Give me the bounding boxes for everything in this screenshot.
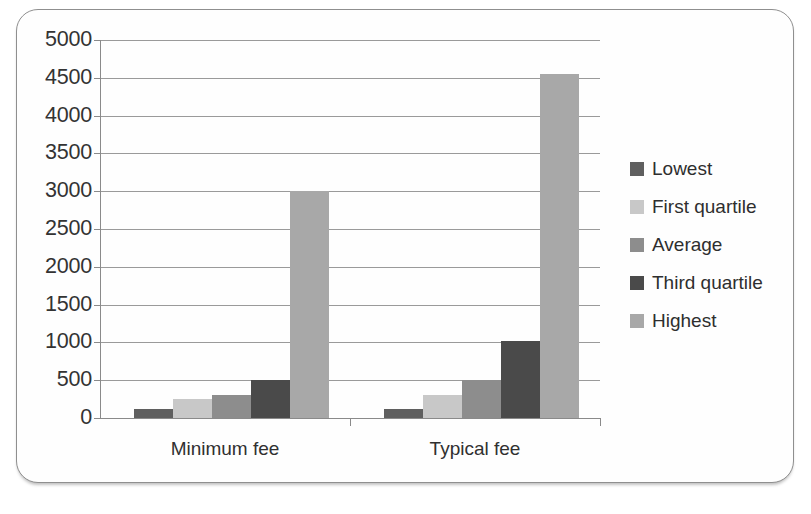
y-axis-tick-label: 2500: [45, 218, 92, 240]
legend-item-label: Lowest: [652, 158, 712, 180]
legend-swatch-icon: [630, 200, 644, 214]
legend-item[interactable]: Highest: [630, 302, 800, 340]
y-axis-tick-label: 4500: [45, 67, 92, 89]
chart-figure: 0500100015002000250030003500400045005000…: [0, 0, 811, 514]
y-axis-tick-labels: 0500100015002000250030003500400045005000: [14, 40, 92, 418]
y-axis-tick-label: 500: [57, 369, 92, 391]
legend-item[interactable]: Average: [630, 226, 800, 264]
bar: [173, 399, 212, 418]
gridline: [100, 153, 600, 154]
gridline: [100, 229, 600, 230]
y-axis-tick-label: 4000: [45, 105, 92, 127]
bar: [501, 341, 540, 418]
legend-swatch-icon: [630, 314, 644, 328]
legend-swatch-icon: [630, 162, 644, 176]
x-axis-category-label: Typical fee: [350, 438, 600, 460]
legend-item[interactable]: Lowest: [630, 150, 800, 188]
plot-area: [100, 40, 600, 418]
y-axis-tick-label: 1000: [45, 331, 92, 353]
y-axis-tick-mark: [94, 418, 101, 419]
y-axis-tick-label: 1500: [45, 294, 92, 316]
legend-item-label: First quartile: [652, 196, 757, 218]
y-axis-tick-label: 3000: [45, 180, 92, 202]
y-axis-tick-label: 5000: [45, 29, 92, 51]
bar: [540, 74, 579, 418]
y-axis-tick-label: 3500: [45, 142, 92, 164]
gridline: [100, 40, 600, 41]
legend-item-label: Third quartile: [652, 272, 763, 294]
y-axis-line: [100, 40, 101, 418]
x-axis-tick-mark: [600, 418, 601, 426]
gridline: [100, 191, 600, 192]
bar: [212, 395, 251, 418]
bar: [423, 395, 462, 418]
legend-item[interactable]: First quartile: [630, 188, 800, 226]
bar: [134, 409, 173, 418]
bar: [384, 409, 423, 418]
x-axis-tick-mark: [350, 418, 351, 426]
legend-item[interactable]: Third quartile: [630, 264, 800, 302]
bar: [462, 380, 501, 418]
y-axis-tick-label: 0: [80, 407, 92, 429]
gridline: [100, 305, 600, 306]
legend-item-label: Highest: [652, 310, 716, 332]
legend-item-label: Average: [652, 234, 722, 256]
chart-legend: LowestFirst quartileAverageThird quartil…: [630, 150, 800, 340]
gridline: [100, 78, 600, 79]
gridline: [100, 267, 600, 268]
x-axis-category-label: Minimum fee: [100, 438, 350, 460]
gridline: [100, 116, 600, 117]
legend-swatch-icon: [630, 238, 644, 252]
y-axis-tick-label: 2000: [45, 256, 92, 278]
bar: [290, 191, 329, 418]
bar: [251, 380, 290, 418]
legend-swatch-icon: [630, 276, 644, 290]
